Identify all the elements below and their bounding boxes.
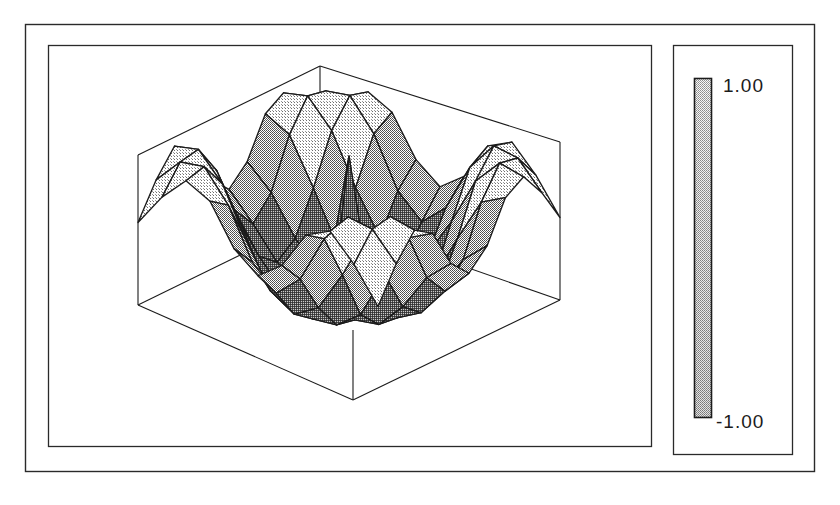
colorbar-max-label: 1.00 [723,75,764,96]
colorbar-dither-overlay [694,78,712,418]
colorbar-min-label: -1.00 [716,411,764,432]
surface-plot-figure: 1.00 -1.00 [0,0,840,505]
